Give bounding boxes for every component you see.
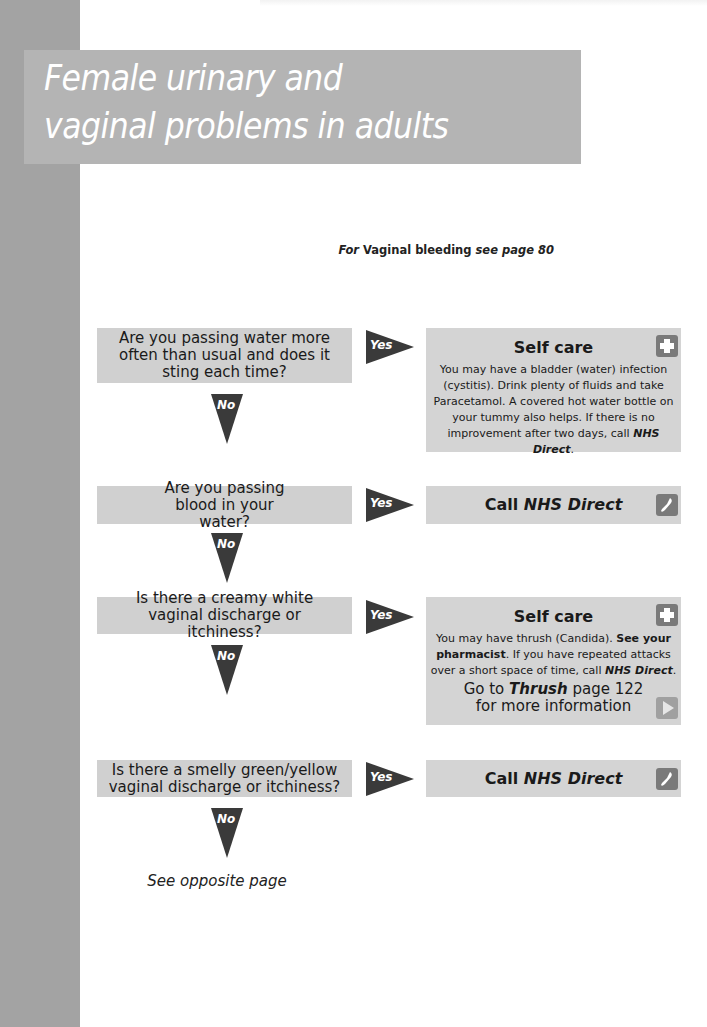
nhs-direct-emphasis: NHS Direct <box>524 769 623 788</box>
page-title-line-2: vaginal problems in adults <box>44 106 449 146</box>
no-label: No <box>217 398 235 412</box>
yes-label: Yes <box>370 338 392 352</box>
call-label: Call <box>485 495 519 514</box>
thrush-link[interactable]: Go to Thrush page 122 for more informati… <box>426 681 681 715</box>
answer-3-body-start: You may have thrush (Candida). <box>436 632 613 645</box>
yes-arrow-4: Yes <box>366 762 414 796</box>
crossref-page: see page 80 <box>476 243 554 257</box>
no-label: No <box>217 649 235 663</box>
call-label: Call <box>485 769 519 788</box>
yes-arrow-3: Yes <box>366 600 414 634</box>
yes-label: Yes <box>370 770 392 784</box>
answer-4-heading: Call NHS Direct <box>485 769 623 789</box>
phone-icon <box>656 494 678 516</box>
no-arrow-1: No <box>211 394 243 444</box>
page-title-line-1: Female urinary and <box>44 58 342 98</box>
nhs-direct-emphasis: NHS Direct <box>524 495 623 514</box>
answer-1-heading: Self care <box>426 338 681 358</box>
answer-1-body: You may have a bladder (water) infection… <box>426 358 681 458</box>
yes-arrow-1: Yes <box>366 330 414 364</box>
crossref-topic: Vaginal bleeding <box>363 243 471 257</box>
answer-3-self-care: Self care You may have thrush (Candida).… <box>426 597 681 725</box>
go-to-label: Go to <box>464 680 505 698</box>
question-4-text: Is there a smelly green/yellow vaginal d… <box>97 762 352 796</box>
bleed-through-text <box>260 0 707 6</box>
no-arrow-2: No <box>211 533 243 583</box>
question-1: Are you passing water more often than us… <box>97 328 352 383</box>
plus-icon <box>656 335 678 357</box>
play-icon[interactable] <box>656 697 678 719</box>
no-arrow-4: No <box>211 808 243 858</box>
answer-3-body-end: . <box>673 664 677 677</box>
answer-3-body: You may have thrush (Candida). See your … <box>426 627 681 679</box>
plus-icon <box>656 604 678 626</box>
thrush-page: page 122 <box>572 680 643 698</box>
no-label: No <box>217 812 235 826</box>
answer-4-call-nhs-direct: Call NHS Direct <box>426 760 681 797</box>
question-3-text: Is there a creamy white vaginal discharg… <box>97 590 352 641</box>
crossref-prefix: For <box>338 243 359 257</box>
answer-3-heading: Self care <box>426 607 681 627</box>
question-2: Are you passing blood in your water? <box>97 486 352 524</box>
see-opposite-page: See opposite page <box>147 872 287 890</box>
answer-1-body-end: . <box>571 443 575 456</box>
answer-2-call-nhs-direct: Call NHS Direct <box>426 486 681 524</box>
no-arrow-3: No <box>211 645 243 695</box>
nhs-direct-emphasis: NHS Direct <box>605 664 673 677</box>
no-label: No <box>217 537 235 551</box>
yes-label: Yes <box>370 496 392 510</box>
yes-arrow-2: Yes <box>366 488 414 522</box>
answer-2-heading: Call NHS Direct <box>485 495 623 515</box>
question-3: Is there a creamy white vaginal discharg… <box>97 597 352 634</box>
question-1-text: Are you passing water more often than us… <box>97 330 352 381</box>
crossref-vaginal-bleeding: For Vaginal bleeding see page 80 <box>0 243 554 257</box>
answer-1-self-care: Self care You may have a bladder (water)… <box>426 328 681 452</box>
yes-label: Yes <box>370 608 392 622</box>
thrush-topic: Thrush <box>509 680 568 698</box>
question-4: Is there a smelly green/yellow vaginal d… <box>97 760 352 797</box>
question-2-text: Are you passing blood in your water? <box>97 480 352 531</box>
phone-icon <box>656 768 678 790</box>
title-band: Female urinary and vaginal problems in a… <box>24 50 581 164</box>
more-info-label: for more information <box>476 697 632 715</box>
